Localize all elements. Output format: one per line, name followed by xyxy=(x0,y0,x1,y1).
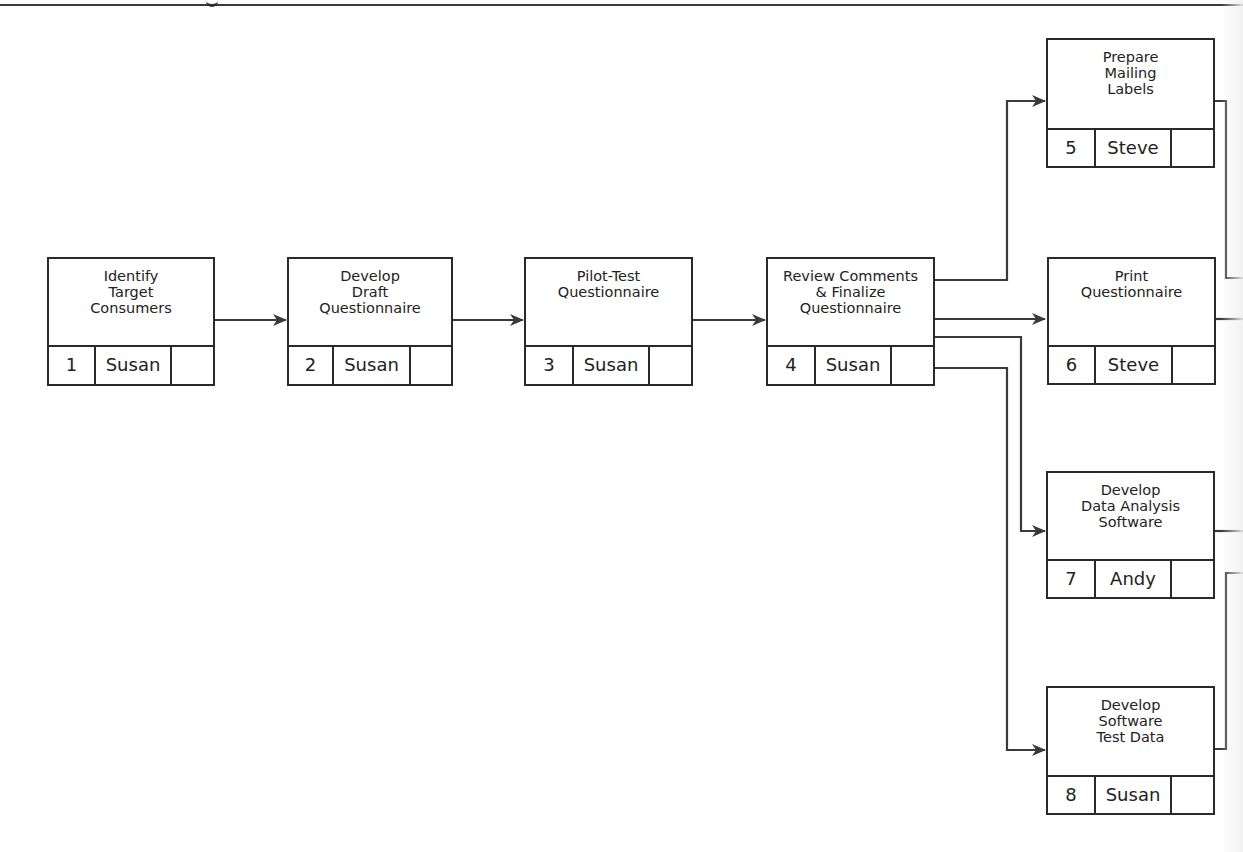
activity-owner: Andy xyxy=(1094,559,1170,597)
activity-node-5: Prepare Mailing Labels 5 Steve xyxy=(1046,38,1215,168)
activity-owner: Susan xyxy=(94,345,170,384)
activity-owner: Susan xyxy=(572,345,648,384)
activity-title: Pilot-Test Questionnaire xyxy=(558,268,660,345)
activity-node-6: Print Questionnaire 6 Steve xyxy=(1047,257,1216,385)
edge-4-5 xyxy=(934,101,1045,280)
page-edge-shadow xyxy=(1221,0,1243,852)
edge-4-8 xyxy=(934,368,1045,750)
activity-node-7: Develop Data Analysis Software 7 Andy xyxy=(1046,471,1215,599)
activity-title: Develop Data Analysis Software xyxy=(1081,482,1180,559)
activity-node-4: Review Comments & Finalize Questionnaire… xyxy=(766,257,935,386)
edge-4-7 xyxy=(934,337,1045,531)
activity-title: Develop Software Test Data xyxy=(1097,697,1165,775)
activity-blank-cell xyxy=(409,345,451,384)
activity-owner: Susan xyxy=(1094,775,1170,813)
activity-number: 3 xyxy=(526,345,572,384)
activity-number: 1 xyxy=(49,345,94,384)
activity-blank-cell xyxy=(1171,345,1214,383)
activity-blank-cell xyxy=(890,345,933,384)
activity-blank-cell xyxy=(648,345,691,384)
activity-number: 6 xyxy=(1049,345,1094,383)
activity-number: 5 xyxy=(1048,128,1094,166)
activity-number: 4 xyxy=(768,345,814,384)
activity-owner: Susan xyxy=(814,345,890,384)
activity-blank-cell xyxy=(1170,559,1213,597)
activity-number: 7 xyxy=(1048,559,1094,597)
activity-node-3: Pilot-Test Questionnaire 3 Susan xyxy=(524,257,693,386)
activity-node-8: Develop Software Test Data 8 Susan xyxy=(1046,686,1215,815)
activity-owner: Steve xyxy=(1094,128,1170,166)
activity-title: Identify Target Consumers xyxy=(90,268,172,345)
activity-blank-cell xyxy=(1170,775,1213,813)
activity-owner: Susan xyxy=(332,345,409,384)
activity-number: 2 xyxy=(289,345,332,384)
activity-node-2: Develop Draft Questionnaire 2 Susan xyxy=(287,257,453,386)
activity-blank-cell xyxy=(170,345,213,384)
activity-blank-cell xyxy=(1170,128,1213,166)
activity-title: Print Questionnaire xyxy=(1081,268,1183,345)
activity-title: Review Comments & Finalize Questionnaire xyxy=(783,268,918,345)
activity-node-1: Identify Target Consumers 1 Susan xyxy=(47,257,215,386)
activity-number: 8 xyxy=(1048,775,1094,813)
activity-title: Develop Draft Questionnaire xyxy=(319,268,421,345)
activity-title: Prepare Mailing Labels xyxy=(1103,49,1159,128)
activity-owner: Steve xyxy=(1094,345,1171,383)
